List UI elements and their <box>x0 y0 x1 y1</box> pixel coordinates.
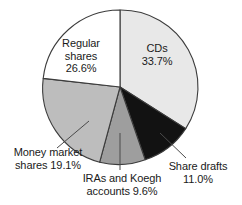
pie-label-iras-koegh: IRAs and Koegh accounts 9.6% <box>74 172 170 197</box>
pie-label-share-drafts-name: Share drafts <box>158 160 238 173</box>
pie-label-share-drafts-value: 11.0% <box>158 173 238 186</box>
pie-label-share-drafts: Share drafts 11.0% <box>158 160 238 185</box>
pie-label-money-market: Money market shares 19.1% <box>2 146 94 171</box>
pie-chart: CDs 33.7% Regular shares 26.6% Money mar… <box>0 0 242 205</box>
pie-label-regular-shares-name-1: Regular <box>50 37 112 50</box>
pie-label-iras-koegh-name: IRAs and Koegh <box>74 172 170 185</box>
pie-label-cds-name: CDs <box>128 42 186 55</box>
pie-label-money-market-value: shares 19.1% <box>2 159 94 172</box>
pie-label-regular-shares-value: 26.6% <box>50 62 112 75</box>
pie-label-cds-value: 33.7% <box>128 55 186 68</box>
pie-label-regular-shares-name-2: shares <box>50 50 112 63</box>
pie-label-iras-koegh-value: accounts 9.6% <box>74 185 170 198</box>
pie-label-cds: CDs 33.7% <box>128 42 186 67</box>
pie-label-regular-shares: Regular shares 26.6% <box>50 37 112 75</box>
pie-label-money-market-name: Money market <box>2 146 94 159</box>
